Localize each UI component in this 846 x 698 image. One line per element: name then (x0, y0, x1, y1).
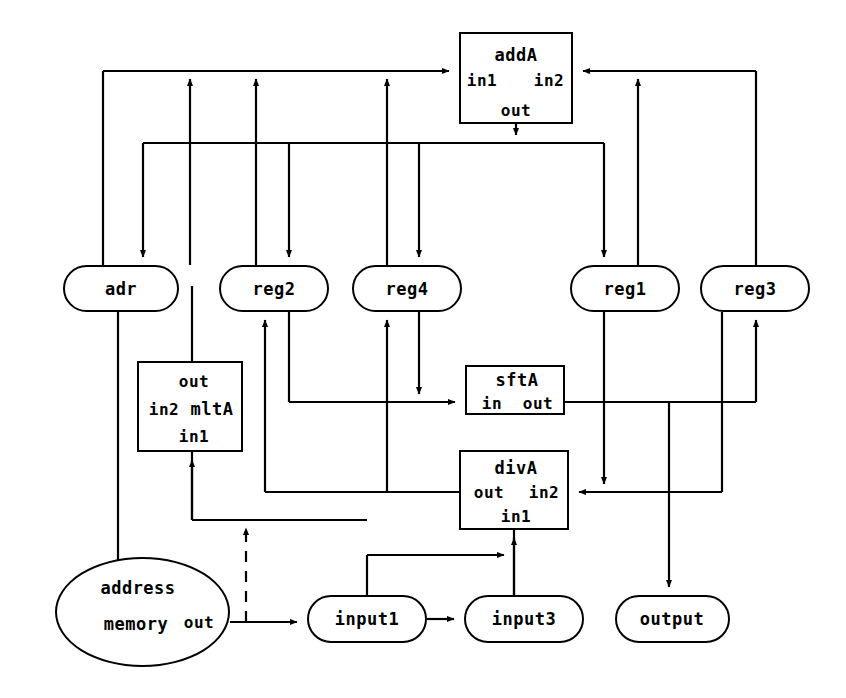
addA-title: addA (495, 45, 538, 65)
divA-port-out: out (474, 483, 504, 502)
mltA-port-in2: in2 (149, 400, 179, 419)
adr-label: adr (105, 279, 137, 299)
sftA-title: sftA (496, 370, 539, 390)
reg3-label: reg3 (734, 279, 777, 299)
divA-title: divA (495, 458, 538, 478)
memory-port-out: out (184, 613, 214, 632)
divA-port-in2: in2 (529, 483, 559, 502)
memory-label: memory (104, 614, 168, 634)
input1-label: input1 (335, 609, 399, 629)
input3-label: input3 (492, 609, 556, 629)
addA-port-out: out (501, 101, 531, 120)
sftA-port-out: out (523, 394, 553, 413)
reg2-label: reg2 (253, 279, 296, 299)
addA-port-in1: in1 (467, 71, 497, 90)
output-label: output (640, 609, 704, 629)
diagram-canvas: addA in1 in2 out adr reg2 reg4 reg1 reg3… (0, 0, 846, 698)
reg4-label: reg4 (386, 279, 429, 299)
mltA-title: mltA (191, 399, 234, 419)
memory-port-address: address (100, 578, 175, 598)
sftA-port-in: in (482, 394, 502, 413)
mltA-port-in1: in1 (179, 427, 209, 446)
divA-port-in1: in1 (501, 507, 531, 526)
addA-port-in2: in2 (534, 71, 564, 90)
mltA-port-out: out (179, 372, 209, 391)
reg1-label: reg1 (604, 279, 647, 299)
